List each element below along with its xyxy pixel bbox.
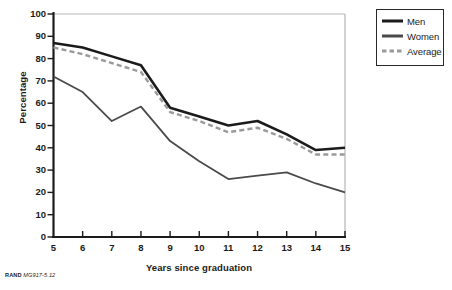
x-tick-label: 14: [306, 242, 326, 253]
x-tick-label: 15: [335, 242, 355, 253]
credit-org: RAND: [5, 272, 22, 278]
legend-label-average: Average: [407, 46, 442, 57]
y-tick-label: 0: [22, 231, 46, 242]
y-tick-label: 20: [22, 186, 46, 197]
legend-swatch-men-icon: [382, 16, 403, 26]
y-tick-label: 80: [22, 53, 46, 64]
y-tick-label: 90: [22, 30, 46, 41]
y-tick-label: 100: [22, 8, 46, 19]
legend: Men Women Average: [376, 9, 444, 66]
legend-label-men: Men: [407, 16, 425, 27]
x-tick-label: 12: [248, 242, 268, 253]
y-tick-label: 10: [22, 209, 46, 220]
y-tick-label: 50: [22, 120, 46, 131]
x-tick-label: 9: [160, 242, 180, 253]
series-lines: [54, 43, 346, 192]
x-tick-label: 7: [102, 242, 122, 253]
legend-item-men: Men: [382, 14, 425, 28]
y-tick-label: 30: [22, 164, 46, 175]
x-tick-label: 8: [131, 242, 151, 253]
plot-frame: [52, 12, 346, 238]
y-tick-label: 40: [22, 142, 46, 153]
series-line-women: [54, 76, 346, 192]
legend-item-women: Women: [382, 29, 439, 43]
legend-item-average: Average: [382, 44, 442, 58]
y-tick-label: 70: [22, 75, 46, 86]
legend-label-women: Women: [407, 31, 439, 42]
credit-code: MG917-5.12: [23, 272, 55, 278]
series-line-average: [54, 47, 346, 154]
x-tick-label: 11: [218, 242, 238, 253]
x-tick-label: 13: [277, 242, 297, 253]
x-tick-label: 6: [73, 242, 93, 253]
x-tick-label: 5: [44, 242, 64, 253]
figure: Percentage Years since graduation 010203…: [0, 0, 452, 290]
x-axis-label: Years since graduation: [53, 262, 345, 273]
y-tick-label: 60: [22, 97, 46, 108]
x-tick-label: 10: [189, 242, 209, 253]
legend-swatch-women-icon: [382, 31, 403, 41]
figure-credit: RAND MG917-5.12: [5, 272, 55, 278]
legend-swatch-average-icon: [382, 46, 403, 56]
